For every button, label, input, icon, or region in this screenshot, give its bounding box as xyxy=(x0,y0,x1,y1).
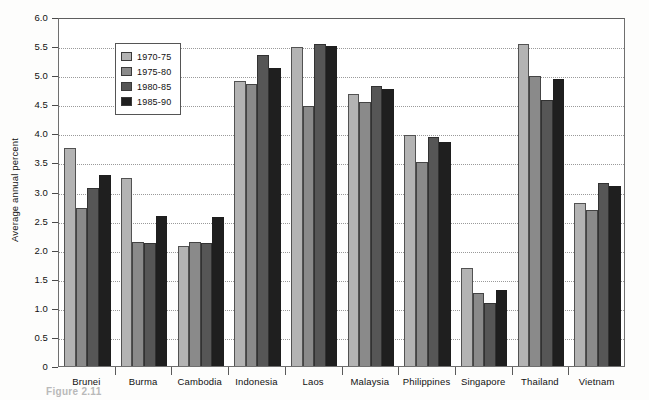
y-axis-tick-label: 3.5 xyxy=(0,157,48,168)
legend-item-label: 1970-75 xyxy=(137,52,171,62)
bar[interactable] xyxy=(76,208,88,366)
bar[interactable] xyxy=(484,303,496,366)
legend-item-label: 1975-80 xyxy=(137,67,171,77)
legend-swatch-icon xyxy=(121,52,132,61)
bar[interactable] xyxy=(132,242,144,366)
bar[interactable] xyxy=(201,243,213,366)
bar[interactable] xyxy=(586,210,598,366)
bar[interactable] xyxy=(178,246,190,366)
x-axis-tick xyxy=(568,367,569,375)
y-axis-tick-label: 1.5 xyxy=(0,274,48,285)
bar[interactable] xyxy=(189,242,201,366)
bar[interactable] xyxy=(212,217,224,366)
bar-group xyxy=(513,19,570,366)
x-axis-category-label: Philippines xyxy=(398,376,455,387)
bar-group xyxy=(456,19,513,366)
y-axis-tick-label: 0 xyxy=(0,361,48,372)
legend-item[interactable]: 1985-90 xyxy=(121,94,176,109)
bar[interactable] xyxy=(326,46,338,366)
y-axis-tick-label: 2.0 xyxy=(0,245,48,256)
bar[interactable] xyxy=(257,55,269,366)
y-axis-tick-label: 0.5 xyxy=(0,332,48,343)
legend-swatch-icon xyxy=(121,67,132,76)
legend-swatch-icon xyxy=(121,97,132,106)
bar[interactable] xyxy=(574,203,586,366)
x-axis-category-label: Vietnam xyxy=(568,376,625,387)
x-axis-category-label: Indonesia xyxy=(228,376,285,387)
x-axis-tick xyxy=(512,367,513,375)
bar[interactable] xyxy=(473,293,485,366)
legend-item[interactable]: 1970-75 xyxy=(121,49,176,64)
bar[interactable] xyxy=(598,183,610,366)
x-axis-tick xyxy=(398,367,399,375)
x-axis-category-label: Burma xyxy=(115,376,172,387)
y-axis-tick-label: 5.0 xyxy=(0,70,48,81)
bar[interactable] xyxy=(416,162,428,366)
x-axis: BruneiBurmaCambodiaIndonesiaLaosMalaysia… xyxy=(58,367,625,397)
bar-group xyxy=(343,19,400,366)
x-axis-tick xyxy=(342,367,343,375)
bar[interactable] xyxy=(529,76,541,366)
bar-group xyxy=(229,19,286,366)
bar[interactable] xyxy=(359,102,371,366)
bar[interactable] xyxy=(371,86,383,366)
bar[interactable] xyxy=(246,84,258,366)
bar[interactable] xyxy=(428,137,440,366)
x-axis-tick xyxy=(228,367,229,375)
y-axis-tick-label: 2.5 xyxy=(0,216,48,227)
y-axis-tick-label: 4.0 xyxy=(0,128,48,139)
legend-swatch-icon xyxy=(121,82,132,91)
bar[interactable] xyxy=(314,44,326,366)
x-axis-tick xyxy=(171,367,172,375)
bar[interactable] xyxy=(269,68,281,366)
x-axis-category-label: Thailand xyxy=(512,376,569,387)
bar[interactable] xyxy=(382,89,394,366)
y-axis-tick-label: 3.0 xyxy=(0,187,48,198)
bar-group xyxy=(59,19,116,366)
bar[interactable] xyxy=(541,100,553,366)
bar-group xyxy=(569,19,625,366)
bar[interactable] xyxy=(404,135,416,367)
x-axis-category-label: Laos xyxy=(285,376,342,387)
figure-caption: Figure 2.11 xyxy=(46,386,102,400)
bar[interactable] xyxy=(553,79,565,366)
bar[interactable] xyxy=(144,243,156,366)
x-axis-category-label: Cambodia xyxy=(171,376,228,387)
y-axis-tick-label: 6.0 xyxy=(0,12,48,23)
legend-item-label: 1980-85 xyxy=(137,82,171,92)
x-axis-tick xyxy=(285,367,286,375)
legend-item-label: 1985-90 xyxy=(137,97,171,107)
bar[interactable] xyxy=(156,216,168,366)
bar-group xyxy=(286,19,343,366)
bar[interactable] xyxy=(87,188,99,366)
bar[interactable] xyxy=(496,290,508,366)
bar[interactable] xyxy=(461,268,473,366)
y-axis-tick-label: 5.5 xyxy=(0,41,48,52)
bar[interactable] xyxy=(99,175,111,366)
legend-item[interactable]: 1975-80 xyxy=(121,64,176,79)
bar-group xyxy=(399,19,456,366)
bar[interactable] xyxy=(291,47,303,366)
bar[interactable] xyxy=(518,44,530,366)
bar[interactable] xyxy=(64,148,76,366)
bar[interactable] xyxy=(234,81,246,366)
figure-container: Average annual percent 6.05.55.04.54.03.… xyxy=(0,0,649,400)
y-axis-tick-label: 1.0 xyxy=(0,303,48,314)
x-axis-tick xyxy=(455,367,456,375)
legend-item[interactable]: 1980-85 xyxy=(121,79,176,94)
chart-legend: 1970-751975-801980-851985-90 xyxy=(115,43,181,115)
bar[interactable] xyxy=(439,142,451,366)
bar[interactable] xyxy=(348,94,360,366)
y-axis-tick-label: 4.5 xyxy=(0,99,48,110)
x-axis-tick xyxy=(115,367,116,375)
bar[interactable] xyxy=(121,178,133,366)
bar[interactable] xyxy=(609,186,621,366)
bar[interactable] xyxy=(303,106,315,366)
x-axis-category-label: Singapore xyxy=(455,376,512,387)
x-axis-category-label: Malaysia xyxy=(342,376,399,387)
